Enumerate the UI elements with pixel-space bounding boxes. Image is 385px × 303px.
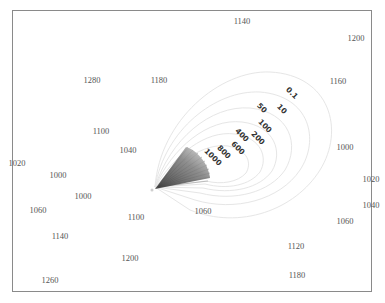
elevation-label: 1140 (52, 231, 69, 241)
elevation-label: 1060 (30, 205, 47, 215)
plume-contours (0, 0, 385, 303)
elevation-label: 1020 (9, 158, 26, 168)
elevation-label: 1200 (122, 253, 139, 263)
elevation-label: 1100 (128, 212, 145, 222)
elevation-label: 1060 (195, 206, 212, 216)
elevation-label: 1260 (42, 275, 59, 285)
elevation-label: 1280 (84, 75, 101, 85)
elevation-label: 1140 (234, 16, 251, 26)
elevation-label: 1180 (289, 270, 306, 280)
elevation-label: 1180 (151, 75, 168, 85)
elevation-label: 1020 (363, 174, 380, 184)
elevation-label: 1120 (288, 241, 305, 251)
elevation-label: 1160 (330, 76, 347, 86)
elevation-label: 1200 (348, 33, 365, 43)
elevation-label: 1000 (75, 191, 92, 201)
elevation-label: 1000 (50, 170, 67, 180)
contour-plot: 0.1 10 50 100 200 400 600 800 1000 1140 … (0, 0, 385, 303)
elevation-label: 1000 (337, 142, 354, 152)
elevation-label: 1060 (337, 216, 354, 226)
elevation-label: 1040 (363, 200, 380, 210)
elevation-label: 1040 (120, 145, 137, 155)
elevation-label: 1100 (93, 126, 110, 136)
